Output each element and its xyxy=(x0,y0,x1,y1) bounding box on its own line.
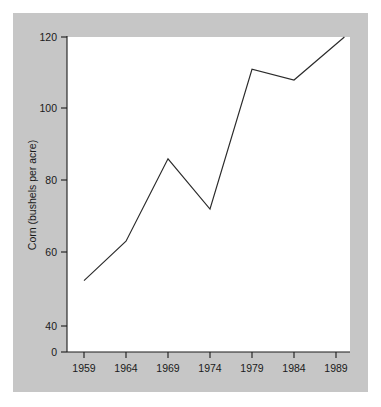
x-axis-tick-labels: 1959 1964 1969 1974 1979 1984 1989 xyxy=(72,362,348,374)
y-tick-label-60: 60 xyxy=(45,246,57,258)
y-tick-label-80: 80 xyxy=(45,174,57,186)
x-tick-label-1959: 1959 xyxy=(72,362,96,374)
plot-area-background xyxy=(67,37,350,352)
y-tick-label-120: 120 xyxy=(39,31,57,43)
y-axis-tick-labels: 120 100 80 60 40 0 xyxy=(39,31,57,358)
y-tick-label-100: 100 xyxy=(39,102,57,114)
x-axis-ticks xyxy=(84,352,336,358)
x-tick-label-1969: 1969 xyxy=(156,362,180,374)
y-tick-label-0: 0 xyxy=(51,346,57,358)
chart-figure: 120 100 80 60 40 0 1959 1964 1969 1974 1… xyxy=(0,0,381,407)
x-tick-label-1989: 1989 xyxy=(324,362,348,374)
x-tick-label-1984: 1984 xyxy=(282,362,306,374)
x-tick-label-1979: 1979 xyxy=(240,362,264,374)
y-tick-label-40: 40 xyxy=(45,320,57,332)
y-axis-ticks xyxy=(61,37,67,352)
x-tick-label-1964: 1964 xyxy=(114,362,138,374)
line-chart: 120 100 80 60 40 0 1959 1964 1969 1974 1… xyxy=(0,0,381,407)
y-axis-title: Corn (bushels per acre) xyxy=(26,140,38,250)
x-tick-label-1974: 1974 xyxy=(198,362,222,374)
